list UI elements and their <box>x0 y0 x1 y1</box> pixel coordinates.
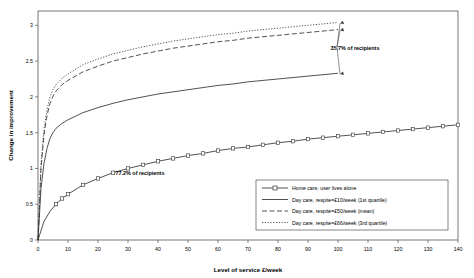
series-marker-0-13 <box>186 154 189 157</box>
x-tick-label-90: 90 <box>305 246 311 252</box>
series-marker-0-12 <box>171 157 174 160</box>
series-marker-0-4 <box>60 197 63 200</box>
chart-svg: 010203040506070809010011012013014000.511… <box>0 0 474 278</box>
series-marker-0-21 <box>306 137 309 140</box>
x-tick-label-0: 0 <box>37 246 40 252</box>
legend-label-0: Home care, user lives alone <box>292 185 356 191</box>
annotation-772: 77.2% of recipients <box>116 170 165 176</box>
annotation-arrowhead-0 <box>340 21 344 24</box>
x-axis-title: Level of service £/week <box>214 266 283 273</box>
series-marker-0-22 <box>321 136 324 139</box>
y-tick-label-1: 1 <box>30 165 33 171</box>
series-marker-0-24 <box>351 133 354 136</box>
series-marker-0-26 <box>381 130 384 133</box>
annotation-arrowhead-1 <box>340 28 344 31</box>
x-tick-label-130: 130 <box>424 246 433 252</box>
series-marker-0-3 <box>54 203 57 206</box>
x-tick-label-100: 100 <box>334 246 343 252</box>
series-marker-0-11 <box>156 160 159 163</box>
y-tick-label-0: 0 <box>30 237 33 243</box>
y-tick-label-2: 2 <box>30 94 33 100</box>
series-marker-0-17 <box>246 145 249 148</box>
annotation-leader-2 <box>337 47 340 74</box>
series-marker-0-20 <box>291 140 294 143</box>
series-marker-0-30 <box>441 125 444 128</box>
y-tick-label-3: 3 <box>30 22 33 28</box>
series-marker-0-5 <box>66 193 69 196</box>
y-tick-label-0.5: 0.5 <box>26 201 33 207</box>
annotation-arrowhead-2 <box>340 71 344 74</box>
series-marker-0-14 <box>201 152 204 155</box>
legend-label-2: Day care, respite=£50/week (mean) <box>292 208 375 214</box>
series-marker-0-6 <box>81 183 84 186</box>
series-marker-0-8 <box>111 171 114 174</box>
y-axis-title: Change in improvement <box>7 90 14 160</box>
x-tick-label-60: 60 <box>215 246 221 252</box>
chart-container: 010203040506070809010011012013014000.511… <box>0 0 474 278</box>
series-marker-0-29 <box>426 126 429 129</box>
x-tick-label-10: 10 <box>65 246 71 252</box>
x-tick-label-110: 110 <box>364 246 372 252</box>
series-marker-0-18 <box>261 143 264 146</box>
x-tick-label-20: 20 <box>95 246 101 252</box>
legend-marker-square <box>273 186 277 190</box>
series-marker-0-27 <box>396 129 399 132</box>
x-tick-label-120: 120 <box>394 246 403 252</box>
x-tick-label-80: 80 <box>275 246 281 252</box>
legend-label-3: Day care, respite=£66/week (3rd quartile… <box>292 220 388 226</box>
x-tick-label-40: 40 <box>155 246 161 252</box>
series-marker-0-15 <box>216 149 219 152</box>
x-tick-label-30: 30 <box>125 246 131 252</box>
x-tick-label-50: 50 <box>185 246 191 252</box>
series-marker-0-23 <box>336 135 339 138</box>
series-marker-0-25 <box>366 132 369 135</box>
series-marker-0-28 <box>411 127 414 130</box>
x-tick-label-140: 140 <box>454 246 463 252</box>
x-tick-label-70: 70 <box>245 246 251 252</box>
series-marker-0-19 <box>276 141 279 144</box>
series-marker-0-16 <box>231 147 234 150</box>
series-marker-0-31 <box>456 123 459 126</box>
series-marker-0-10 <box>141 163 144 166</box>
series-marker-0-7 <box>96 177 99 180</box>
y-tick-label-2.5: 2.5 <box>26 58 33 64</box>
y-tick-label-1.5: 1.5 <box>26 130 33 136</box>
annotation-357: 35.7% of recipients <box>331 45 380 51</box>
legend-label-1: Day care, respite=£10/week (1st quartile… <box>292 197 387 203</box>
